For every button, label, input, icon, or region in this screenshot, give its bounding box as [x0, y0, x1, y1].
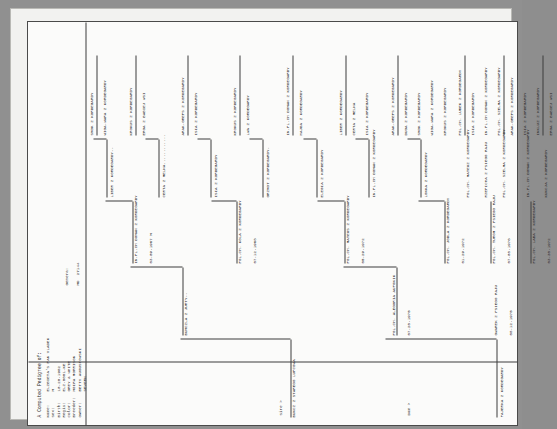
node-dam-gen5-10: KROKUS Z KORDEGARDY: [442, 87, 447, 135]
field-value-owner: BETTY AUGUSTOWSKI: [77, 337, 82, 391]
field-value-regis: ELZ-0001-KE: [61, 337, 66, 391]
connector-sire-gen4-4: [303, 138, 316, 139]
node-sire-gen2-0: BUMCZLA Z JURTY--: [173, 292, 208, 335]
field-value-breeder: MOIRA MORRISON: [71, 337, 76, 391]
node-sire-gen3-2: POL.CH. MATEUS Z KORDEGARDY 05-29-1972: [335, 195, 375, 263]
node-dam-gen3-1: POL.CH. LABA Z KORDEGARDY 03-30-1972: [521, 200, 557, 263]
node-sire-gen3-1: POL.CH. KOLA Z KORDEGARDY 07-12-1968: [227, 200, 267, 263]
rule-sire-gen5-2: [135, 55, 136, 135]
node-sire-gen5-3: ERGA Z BABIEJ WSI: [141, 92, 146, 135]
connector-sire-gen1: [180, 338, 290, 339]
field-row-sex: Sex: M: [50, 337, 55, 417]
page-title: A Computed Pedigree of:: [35, 167, 42, 417]
connector-sire-gen4-3: [249, 138, 262, 139]
rule-dam-gen5-2: [503, 55, 504, 135]
rule-dam-gen1: [496, 339, 497, 417]
rule-sire-gen4-3: [262, 139, 263, 197]
field-label-name: Name:: [45, 391, 50, 417]
field-row-breeder: Breeder: MOIRA MORRISON: [71, 337, 76, 417]
node-dam-gen2-0: GWAREK Z PSIEGO RAJU 08-12-1975: [483, 284, 523, 335]
node-dam-gen4-1: RZEPICHA Z PSIEGO RAJU: [483, 141, 488, 197]
field-value-birth: 10-20-1982: [56, 337, 61, 391]
connector-sire-gen4-2: [197, 138, 210, 139]
node-sire-gen4-6: LONKA Z KORDEGARDY: [413, 151, 438, 197]
rule-sire-gen4-6: [420, 139, 421, 197]
node-dam-gen5-9: WIGA-WARA Z KORDEGARDY: [429, 79, 434, 135]
node-sire-gen5-0: SMOK Z KORDEGARDY: [89, 92, 94, 135]
rule-sire-gen5-8: [292, 55, 293, 135]
node-dam-gen5-6: INKLUZ Z KORDEGARDY: [535, 87, 540, 135]
field-value-color: GREY & WHITE: [66, 337, 71, 391]
rule-sire-gen4-1: [158, 139, 159, 197]
node-sire-gen4-0: LIBER Z KORDEGARDY--: [99, 146, 124, 197]
node-sire-gen5-10: LIBER Z KORDEGARDY: [338, 89, 343, 135]
connector-sire-gen3-0: [105, 200, 132, 201]
rule-sire-gen3-2: [344, 201, 345, 263]
node-sire-gen5-5: ISIA Z KORDEGARDY: [193, 92, 198, 135]
node-dam-gen1: FAJERKA Z KORDEGARDY: [489, 366, 514, 417]
field-value-sex: M: [50, 337, 55, 391]
node-dam-gen4-3: IN.PL.CH DOMAN Z KORDEGARDY: [525, 129, 530, 197]
rule-sire-gen2-1: [396, 267, 397, 335]
rule-dam-gen5-0: [464, 55, 465, 135]
rule-sire-gen4-2: [210, 139, 211, 197]
field-label-breeder: Breeder:: [71, 391, 76, 417]
rule-dam-gen3-0: [490, 201, 491, 263]
node-dam-gen5-5: ISIA Z KORDEGARDY: [522, 92, 527, 135]
rule-sire-gen3-0: [132, 201, 133, 263]
node-sire-gen5-9: HAJDA Z KORDEGARDY: [298, 89, 303, 135]
node-dam-gen5-3: POL.CH. SZELMA Z KORDEGARDY: [496, 67, 501, 135]
rule-sire-gen4-0: [106, 139, 107, 197]
rule-sire-gen5-10: [345, 55, 346, 135]
connector-sire-gen3-1: [211, 200, 236, 201]
node-sire-gen5-11: CERTA Z MELNA: [351, 102, 356, 135]
pedigree-page: A Computed Pedigree of: Name: ELZBIETA'S…: [28, 22, 517, 425]
node-sire-gen2-1: POL.CH. ALEGORIA AUFONIK 07-20-1975: [381, 274, 421, 335]
rule-sire-gen2-0: [182, 267, 183, 335]
node-dam-gen4-0: POL.CH. MATEUZ Z KORDEGARDY: [465, 129, 470, 197]
rule-sire-gen1: [290, 339, 291, 417]
node-dam-gen5-1: ISIA Z KORDEGARDY: [470, 92, 475, 135]
node-sire-gen1: BUNCZ Z STAREGO LUPCOWA: [281, 359, 306, 417]
rule-sire-gen4-4: [316, 139, 317, 197]
node-dam-gen5-8: SMOK Z KORDEGARDY: [416, 92, 421, 135]
node-sire-gen5-4: ARAK-GREPS Z KORDEGARDY: [180, 77, 185, 135]
node-sire-gen5-13: ARAK-GREPS Z KORDEGARDY: [390, 77, 395, 135]
connector-sire-gen2-1: [343, 266, 396, 267]
node-dam-gen4-2: POL.CH. SZELMA Z KORDEGARDY: [501, 129, 506, 197]
field-label-sex: Sex:: [50, 391, 55, 417]
rule-sire-gen5-6: [239, 55, 240, 135]
node-sire-gen4-2: ISIA Z KORDEGARDY: [203, 154, 228, 197]
node-sire-gen5-7: LWA Z KORDEGARDY: [245, 95, 250, 135]
connector-sire-gen4-0: [93, 138, 106, 139]
rule-sire-gen5-13: [397, 55, 398, 135]
node-dam-gen5-4: ARAK-GREPS Z KORDEGARDY: [509, 77, 514, 135]
subject-fields-table: Name: ELZBIETA'S PAN VLADEK Sex: M Birth…: [45, 337, 87, 417]
connector-sire-gen2-0: [130, 266, 182, 267]
rule-sire-gen5-0: [96, 55, 97, 135]
field-row-owner: Owner: BETTY AUGUSTOWSKI: [77, 337, 82, 417]
field-label-birth: Birth:: [56, 391, 61, 417]
connector-sire-gen3-2: [317, 200, 344, 201]
field-row-birth: Birth: 10-20-1982: [56, 337, 61, 417]
node-dam-gen5-0: POL.CH. LUBEK Z KORDEGARDY: [457, 69, 462, 135]
node-sire-gen5-14: DUGA Z KORDEGARDY: [403, 92, 408, 135]
node-dam-gen5-2: IN.PL.CH DOMAN Z KORDEGARDY: [483, 67, 488, 135]
node-sire-gen4-3: GRZMOT Z KORDEGARDY-: [255, 146, 280, 197]
field-value-name: ELZBIETA'S PAN VLADEK: [45, 337, 50, 391]
field-label-color: Color:: [66, 391, 71, 417]
field-label-owner: Owner:: [77, 391, 82, 417]
field-row-regis: Regis: ELZ-0001-KE: [61, 337, 66, 417]
field-row-color: Color: GREY & WHITE: [66, 337, 71, 417]
node-sire-gen5-1: WIGA-WARA Z KORDEGARDY: [102, 79, 107, 135]
rule-dam-gen3-1: [530, 201, 531, 263]
node-dam-gen3-0: POL.CH. TUROM Z PSIEGO RAJU 07-08-1976: [481, 195, 521, 263]
node-sire-gen5-12: ISIA Z KORDEGARDY: [364, 92, 369, 135]
node-dam-gen4-4: KUNCJA Z KORDEGARDY: [543, 149, 548, 197]
node-sire-gen4-4: ELEGIA Z KORDEGARDY: [309, 149, 334, 197]
generations-value: MD 27144: [75, 262, 80, 285]
node-sire-gen5-8: IN.PL.CH DOMAN Z KORDEGARDY: [285, 67, 290, 135]
field-label-regis: Regis:: [61, 391, 66, 417]
node-sire-gen4-1: CERTA Z MELNA............: [151, 134, 176, 197]
connector-sire-gen4-1: [145, 138, 158, 139]
